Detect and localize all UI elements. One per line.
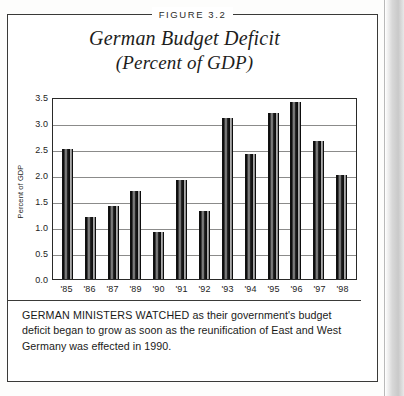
y-axis-tick-labels: 3.53.02.52.01.51.00.50.0 — [24, 98, 48, 280]
bar — [199, 211, 210, 279]
x-axis-tick: '90 — [147, 282, 170, 296]
figure-header-rule-left — [7, 14, 152, 15]
x-axis-tick: '98 — [331, 282, 354, 296]
x-axis-tick: '95 — [262, 282, 285, 296]
chart-plot-wrapper: Percent of GDP 3.53.02.52.01.51.00.50.0 … — [8, 98, 361, 294]
plot-area — [52, 98, 357, 280]
bar — [336, 175, 347, 279]
chart-title-line1: German Budget Deficit — [8, 26, 361, 51]
y-axis-tick: 2.0 — [24, 171, 48, 181]
figure-header-rule-right — [233, 14, 378, 15]
bar-series — [53, 99, 356, 279]
bar — [313, 141, 324, 279]
page-edge-shadow — [385, 0, 404, 396]
bar — [108, 206, 119, 279]
bar-slot — [239, 99, 262, 279]
figure-caption: GERMAN MINISTERS WATCHED as their govern… — [22, 308, 355, 354]
bar-slot — [307, 99, 330, 279]
bar — [153, 232, 164, 279]
y-axis-tick: 2.5 — [24, 145, 48, 155]
bar-slot — [330, 99, 353, 279]
scanned-page: FIGURE 3.2 German Budget Deficit (Percen… — [0, 0, 404, 396]
chart-title: German Budget Deficit (Percent of GDP) — [8, 26, 361, 75]
x-axis-tick: '86 — [78, 282, 101, 296]
x-axis-tick: '94 — [239, 282, 262, 296]
caption-divider — [8, 300, 361, 301]
y-axis-tick: 3.5 — [24, 93, 48, 103]
caption-lead-in: GERMAN MINISTERS WATCHED — [22, 309, 189, 321]
bar — [130, 191, 141, 279]
bar-slot — [284, 99, 307, 279]
bar-slot — [147, 99, 170, 279]
bar — [85, 217, 96, 279]
y-axis-tick: 1.0 — [24, 223, 48, 233]
bar — [176, 180, 187, 279]
bar-slot — [56, 99, 79, 279]
figure-label: FIGURE 3.2 — [152, 7, 234, 22]
bar-slot — [170, 99, 193, 279]
x-axis-tick-labels: '85'86'87'89'90'91'92'93'94'95'96'97'98 — [52, 282, 357, 296]
bar — [222, 118, 233, 279]
bar — [62, 149, 73, 279]
page-edge-line — [384, 0, 385, 396]
x-axis-tick: '85 — [55, 282, 78, 296]
chart-title-line2: (Percent of GDP) — [8, 51, 361, 75]
x-axis-tick: '97 — [308, 282, 331, 296]
bar-slot — [193, 99, 216, 279]
bar — [268, 113, 279, 279]
x-axis-tick: '93 — [216, 282, 239, 296]
bar-slot — [102, 99, 125, 279]
bar-slot — [79, 99, 102, 279]
y-axis-tick: 3.0 — [24, 119, 48, 129]
x-axis-tick: '96 — [285, 282, 308, 296]
x-axis-tick: '89 — [124, 282, 147, 296]
bar-slot — [216, 99, 239, 279]
bar — [290, 102, 301, 279]
x-axis-tick: '92 — [193, 282, 216, 296]
bar-slot — [262, 99, 285, 279]
y-axis-tick: 0.0 — [24, 275, 48, 285]
x-axis-tick: '87 — [101, 282, 124, 296]
y-axis-tick: 0.5 — [24, 249, 48, 259]
bar-slot — [125, 99, 148, 279]
bar — [245, 154, 256, 279]
figure-header: FIGURE 3.2 — [7, 7, 378, 22]
y-axis-tick: 1.5 — [24, 197, 48, 207]
x-axis-tick: '91 — [170, 282, 193, 296]
